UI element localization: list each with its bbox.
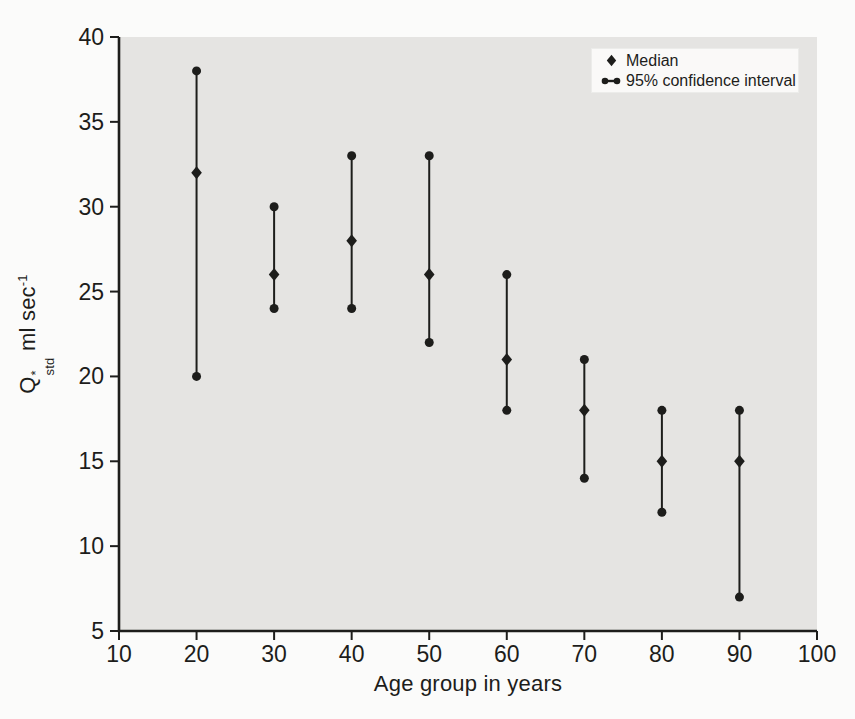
ci-high-dot [270, 202, 279, 211]
plot-svg: 510152025303540102030405060708090100 [0, 0, 855, 719]
y-axis-title-supsub: *std [30, 358, 57, 376]
chart-figure: 510152025303540102030405060708090100 Age… [0, 0, 855, 719]
legend-item-median: Median [600, 51, 798, 70]
y-axis-title-unit: ml sec [15, 286, 40, 351]
x-tick-label: 80 [649, 641, 675, 667]
ci-low-dot [270, 304, 279, 313]
ci-high-dot [580, 355, 589, 364]
legend-item-label: Median [626, 51, 678, 70]
y-tick-label: 40 [78, 24, 104, 50]
ci-low-dot [580, 474, 589, 483]
ci-high-dot [347, 151, 356, 160]
x-tick-label: 50 [416, 641, 442, 667]
x-tick-label: 20 [184, 641, 210, 667]
ci-low-dot [347, 304, 356, 313]
plot-area [119, 37, 817, 631]
ci-high-dot [657, 406, 666, 415]
y-tick-label: 10 [78, 533, 104, 559]
y-tick-label: 30 [78, 194, 104, 220]
y-axis-title-sup: * [30, 370, 44, 375]
ci-high-dot [735, 406, 744, 415]
x-tick-label: 40 [339, 641, 365, 667]
y-axis-title-exponent: -1 [15, 274, 30, 286]
ci-low-dot [192, 372, 201, 381]
ci-high-dot [502, 270, 511, 279]
y-tick-label: 20 [78, 363, 104, 389]
y-tick-label: 25 [78, 279, 104, 305]
ci-low-dot [425, 338, 434, 347]
legend-item-confidence-interval: 95% confidence interval [600, 71, 798, 90]
ci-low-dot [657, 508, 666, 517]
y-axis-title-sub: std [43, 358, 57, 376]
ci-low-dot [502, 406, 511, 415]
y-axis-title: Q*stdml sec-1 [15, 274, 57, 394]
ci-high-dot [192, 66, 201, 75]
x-tick-label: 60 [494, 641, 520, 667]
x-tick-label: 100 [798, 641, 836, 667]
x-tick-label: 10 [106, 641, 132, 667]
x-tick-label: 30 [261, 641, 287, 667]
confidence-interval-dots-icon [600, 76, 622, 86]
median-diamond-icon [600, 54, 622, 67]
ci-high-dot [425, 151, 434, 160]
x-tick-label: 70 [572, 641, 598, 667]
y-tick-label: 15 [78, 448, 104, 474]
y-axis-title-base: Q [15, 376, 40, 393]
legend-item-label: 95% confidence interval [626, 71, 796, 90]
ci-low-dot [735, 593, 744, 602]
y-tick-label: 5 [91, 618, 104, 644]
x-axis-title: Age group in years [119, 671, 817, 697]
x-tick-label: 90 [727, 641, 753, 667]
y-tick-label: 35 [78, 109, 104, 135]
legend-box: Median 95% confidence interval [591, 48, 799, 93]
